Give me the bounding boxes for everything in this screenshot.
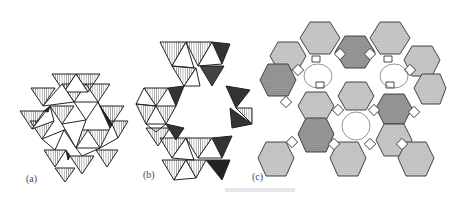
panel-b-tetrahedra-ring [136,42,252,180]
figure-caption-faint [225,188,295,192]
panel-b-label: (b) [143,169,155,181]
panel-c-zeolite-framework [258,22,446,176]
panel-a-tetrahedra [20,74,128,182]
figure-canvas: (a) (b) [0,0,451,199]
panel-c-label: (c) [252,171,263,183]
panel-a-label: (a) [26,173,37,185]
